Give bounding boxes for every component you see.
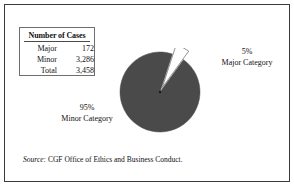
row-label-major: Major	[20, 43, 57, 54]
source-text: CGF Office of Ethics and Business Conduc…	[48, 155, 183, 164]
figure-frame: Number of Cases Major 172 Minor 3,286 To…	[4, 4, 290, 182]
table-row: Total 3,458	[20, 65, 94, 76]
pie-label-major-category: 5% Major Category	[201, 47, 293, 68]
row-value-minor: 3,286	[57, 54, 94, 65]
row-value-major: 172	[57, 43, 94, 54]
minor-name: Minor Category	[35, 114, 139, 125]
row-value-total: 3,458	[57, 65, 94, 76]
table-row: Minor 3,286	[20, 54, 94, 65]
major-percent: 5%	[201, 47, 293, 58]
pie-label-minor-category: 95% Minor Category	[35, 103, 139, 124]
source-prefix: Source:	[23, 155, 46, 164]
cases-table-title: Number of Cases	[24, 29, 90, 42]
source-note: Source: CGF Office of Ethics and Busines…	[23, 155, 183, 164]
cases-table-body: Major 172 Minor 3,286 Total 3,458	[20, 43, 94, 76]
major-name: Major Category	[201, 58, 293, 69]
figure-container: Number of Cases Major 172 Minor 3,286 To…	[0, 0, 294, 186]
row-label-total: Total	[20, 65, 57, 76]
minor-percent: 95%	[35, 103, 139, 114]
cases-table: Number of Cases Major 172 Minor 3,286 To…	[19, 27, 95, 76]
pie-center-dot	[159, 91, 161, 93]
table-row: Major 172	[20, 43, 94, 54]
row-label-minor: Minor	[20, 54, 57, 65]
